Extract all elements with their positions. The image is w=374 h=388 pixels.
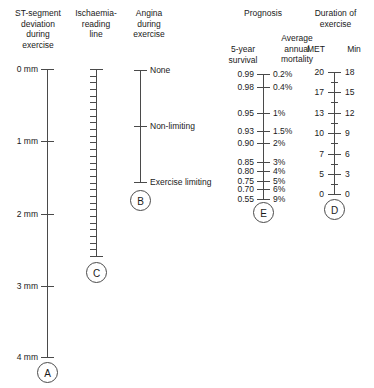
ischaemia-minor-tick xyxy=(90,89,97,90)
ischaemia-minor-tick xyxy=(90,129,97,130)
duration-tick xyxy=(328,113,341,114)
prognosis-mortality-label: 0.4% xyxy=(273,82,292,92)
st-segment-tick xyxy=(41,357,54,358)
duration-met-label: 10 xyxy=(296,128,324,138)
ischaemia-minor-tick xyxy=(90,249,97,250)
prognosis-tick xyxy=(257,189,270,190)
st-segment-tick-label: 2 mm xyxy=(0,209,38,219)
duration-tick xyxy=(328,92,341,93)
ischaemia-minor-tick xyxy=(90,136,97,137)
duration-met-label: 7 xyxy=(296,149,324,159)
duration-tick xyxy=(328,194,341,195)
ischaemia-minor-tick xyxy=(90,142,97,143)
prognosis-mortality-label: 9% xyxy=(273,194,285,204)
duration-tick xyxy=(328,174,341,175)
duration-met-label: 13 xyxy=(296,108,324,118)
st-segment-tick xyxy=(41,141,54,142)
prognosis-mortality-label: 1.5% xyxy=(273,126,292,136)
ischaemia-minor-tick xyxy=(90,216,97,217)
duration-tick xyxy=(328,133,341,134)
duration-met-label: 0 xyxy=(296,189,324,199)
prognosis-survival-label: 0.70 xyxy=(216,184,254,194)
prognosis-tick xyxy=(257,131,270,132)
duration-min-label: 9 xyxy=(345,128,350,138)
angina-tick-label: Non-limiting xyxy=(150,121,195,131)
ischaemia-minor-tick xyxy=(90,229,97,230)
ischaemia-minor-tick xyxy=(90,96,97,97)
duration-min-label: 3 xyxy=(345,169,350,179)
scale-key-a: A xyxy=(37,362,58,383)
ischaemia-tick-top xyxy=(90,69,103,70)
ischaemia-minor-tick xyxy=(90,169,97,170)
prognosis-tick xyxy=(257,181,270,182)
ischaemia-minor-tick xyxy=(90,122,97,123)
ischaemia-minor-tick xyxy=(90,102,97,103)
prognosis-survival-label: 0.55 xyxy=(216,194,254,204)
ischaemia-minor-tick xyxy=(90,176,97,177)
scale-key-c: C xyxy=(86,262,107,283)
ischaemia-minor-tick xyxy=(90,163,97,164)
duration-met-label: 5 xyxy=(296,169,324,179)
st-segment-axis-line xyxy=(47,69,48,357)
duration-met-label: 20 xyxy=(296,67,324,77)
duration-min-label: 6 xyxy=(345,149,350,159)
st-segment-tick xyxy=(41,69,54,70)
ischaemia-minor-tick xyxy=(90,203,97,204)
prognosis-survival-label: 0.98 xyxy=(216,82,254,92)
duration-met-label: 17 xyxy=(296,87,324,97)
st-segment-tick-label: 3 mm xyxy=(0,281,38,291)
st-segment-tick-label: 1 mm xyxy=(0,136,38,146)
prognosis-survival-label: 0.90 xyxy=(216,138,254,148)
angina-tick xyxy=(134,126,147,127)
ischaemia-tick-bottom xyxy=(90,256,103,257)
prognosis-tick xyxy=(257,171,270,172)
ischaemia-minor-tick xyxy=(90,223,97,224)
duration-minor-tick xyxy=(331,164,338,165)
angina-tick xyxy=(134,70,147,71)
st-segment-tick-label: 4 mm xyxy=(0,352,38,362)
prognosis-survival-label: 0.99 xyxy=(216,69,254,79)
scale-key-d: D xyxy=(324,199,345,220)
prognosis-survival-subheader: 5-year survival xyxy=(218,44,268,65)
duration-min-label: 12 xyxy=(345,108,354,118)
angina-tick-label: None xyxy=(150,65,170,75)
ischaemia-minor-tick xyxy=(90,156,97,157)
st-segment-tick xyxy=(41,214,54,215)
prognosis-mortality-label: 4% xyxy=(273,166,285,176)
duration-minor-tick xyxy=(331,82,338,83)
duration-minor-tick xyxy=(331,102,338,103)
prognosis-header: Prognosis xyxy=(218,8,308,19)
duration-met-subheader: MET xyxy=(298,44,334,55)
ischaemia-minor-tick xyxy=(90,109,97,110)
prognosis-mortality-label: 0.2% xyxy=(273,69,292,79)
prognosis-survival-label: 0.80 xyxy=(216,166,254,176)
ischaemia-minor-tick xyxy=(90,189,97,190)
ischaemia-minor-tick xyxy=(90,183,97,184)
angina-tick xyxy=(134,182,147,183)
prognosis-survival-label: 0.93 xyxy=(216,126,254,136)
duration-min-label: 0 xyxy=(345,189,350,199)
duration-header: Duration of exercise xyxy=(297,8,374,29)
st-segment-tick-label: 0 mm xyxy=(0,64,38,74)
prognosis-tick xyxy=(257,199,270,200)
duration-tick xyxy=(328,154,341,155)
st-segment-tick xyxy=(41,286,54,287)
duration-min-label: 18 xyxy=(345,67,354,77)
ischaemia-minor-tick xyxy=(90,196,97,197)
ischaemia-minor-tick xyxy=(90,76,97,77)
ischaemia-minor-tick xyxy=(90,236,97,237)
prognosis-mortality-label: 6% xyxy=(273,184,285,194)
ischaemia-minor-tick xyxy=(90,243,97,244)
prognosis-survival-label: 0.95 xyxy=(216,108,254,118)
ischaemia-minor-tick xyxy=(90,82,97,83)
duration-minor-tick xyxy=(331,184,338,185)
duration-min-subheader: Min xyxy=(339,44,369,55)
prognosis-mortality-label: 2% xyxy=(273,138,285,148)
prognosis-tick xyxy=(257,87,270,88)
scale-key-b: B xyxy=(130,190,151,211)
duration-tick xyxy=(328,72,341,73)
angina-header: Angina during exercise xyxy=(118,8,180,40)
prognosis-tick xyxy=(257,113,270,114)
ischaemia-minor-tick xyxy=(90,209,97,210)
duration-minor-tick xyxy=(331,123,338,124)
